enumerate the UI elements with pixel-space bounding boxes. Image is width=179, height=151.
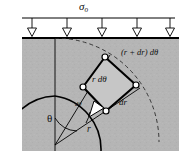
inner-arc-length-label: r dθ <box>92 75 107 84</box>
applied-stress-label: σo <box>79 1 88 14</box>
load-arrow-1 <box>28 18 37 37</box>
load-arrow-2 <box>63 18 72 37</box>
figure-canvas: σo (r + dr) dθ r dθ dr dθ θ r <box>0 0 179 151</box>
load-arrow-5 <box>166 18 175 37</box>
radius-label: r <box>87 125 91 135</box>
load-arrow-3 <box>98 18 107 37</box>
load-arrow-4 <box>133 18 142 37</box>
polar-angle-label: θ <box>47 113 52 124</box>
radial-thickness-label: dr <box>119 98 127 107</box>
node-inner-bottom <box>103 108 109 114</box>
angle-increment-label: dθ <box>75 101 81 108</box>
node-outer-top <box>102 54 108 60</box>
node-outer-right <box>133 82 139 88</box>
outer-arc-length-label: (r + dr) dθ <box>121 48 158 57</box>
load-arrows-group <box>28 18 175 37</box>
node-inner-left <box>80 84 86 90</box>
